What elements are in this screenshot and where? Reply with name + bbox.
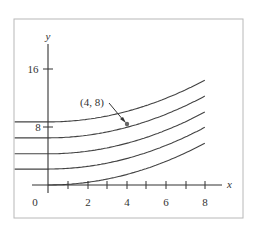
- x-tick-label-6: 6: [163, 196, 169, 208]
- x-tick-label-2: 2: [85, 196, 91, 208]
- x-tick-label-8: 8: [202, 196, 208, 208]
- x-axis-label: x: [226, 178, 232, 190]
- point-marker: [125, 122, 129, 126]
- curve-line: [15, 112, 205, 154]
- curve-line: [48, 143, 205, 185]
- curve-line: [15, 80, 205, 122]
- y-tick-label-8: 8: [35, 121, 41, 133]
- y-tick-label-16: 16: [28, 63, 40, 75]
- origin-label: 0: [32, 196, 38, 208]
- curves: [15, 80, 205, 185]
- curve-line: [15, 127, 205, 169]
- point-annotation-label: (4, 8): [80, 96, 104, 109]
- family-of-curves-chart: 0 2 4 6 8 8 16 x y (4, 8): [0, 0, 254, 225]
- x-tick-label-4: 4: [124, 196, 130, 208]
- curve-line: [15, 96, 205, 138]
- y-axis-label: y: [45, 30, 51, 42]
